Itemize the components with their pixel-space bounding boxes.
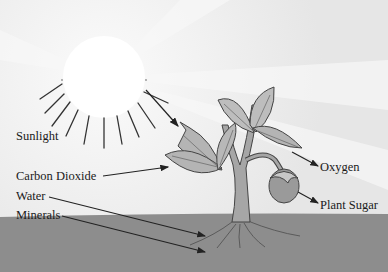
plant-sugar-label: Plant Sugar [320,199,378,212]
sunlight-label: Sunlight [16,130,58,143]
ground [0,213,388,272]
water-label: Water [16,190,46,203]
carbon-dioxide-label: Carbon Dioxide [16,170,96,183]
oxygen-label: Oxygen [320,161,360,174]
photosynthesis-diagram: Sunlight Carbon Dioxide Water Minerals O… [0,0,388,272]
minerals-label: Minerals [16,209,60,222]
